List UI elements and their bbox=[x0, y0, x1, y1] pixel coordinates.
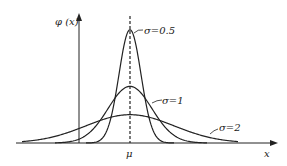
sigma-2-label: σ=2 bbox=[219, 122, 241, 133]
y-axis-label: φ (x) bbox=[55, 16, 79, 27]
sigma-05-label: σ=0.5 bbox=[144, 25, 175, 36]
leader-s1 bbox=[152, 100, 162, 103]
normal-distribution-chart: φ (x) x μ σ=0.5 σ=1 σ=2 bbox=[0, 0, 287, 166]
leader-s05 bbox=[134, 30, 143, 33]
mu-tick-label: μ bbox=[126, 148, 133, 159]
x-axis-arrow-icon bbox=[270, 140, 278, 146]
x-axis-label: x bbox=[264, 148, 270, 159]
leader-s2 bbox=[210, 129, 218, 134]
sigma-1-label: σ=1 bbox=[162, 95, 184, 106]
